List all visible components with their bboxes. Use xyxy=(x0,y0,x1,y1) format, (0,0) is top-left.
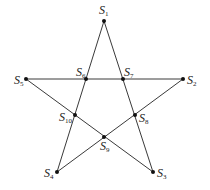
label-s10: S10 xyxy=(59,110,73,125)
label-s4: S4 xyxy=(44,166,54,181)
vertex-s1 xyxy=(102,19,106,23)
vertex-s3 xyxy=(151,170,155,174)
pentagram-diagram: S1S2S3S4S5S6S7S8S9S10 xyxy=(0,0,210,190)
vertex-s5 xyxy=(24,77,28,81)
label-s8: S8 xyxy=(139,111,149,126)
label-subscript: 8 xyxy=(145,118,149,126)
label-subscript: 2 xyxy=(193,80,197,88)
edge-s5-s3 xyxy=(26,79,153,172)
label-subscript: 7 xyxy=(130,72,134,80)
label-subscript: 5 xyxy=(20,80,24,88)
label-subscript: 6 xyxy=(82,72,86,80)
label-s1: S1 xyxy=(99,3,109,18)
label-s6: S6 xyxy=(76,65,86,80)
label-subscript: 4 xyxy=(50,173,54,181)
label-subscript: 3 xyxy=(163,173,167,181)
label-s7: S7 xyxy=(124,65,134,80)
label-group: S1S2S3S4S5S6S7S8S9S10 xyxy=(14,3,197,181)
label-s5: S5 xyxy=(14,73,24,88)
label-subscript: 1 xyxy=(105,10,109,18)
vertex-s2 xyxy=(181,77,185,81)
vertex-s10 xyxy=(73,113,77,117)
vertex-s8 xyxy=(133,113,137,117)
edge-s1-s4 xyxy=(57,21,104,172)
edge-s2-s4 xyxy=(57,79,183,172)
label-subscript: 9 xyxy=(106,146,110,154)
label-subscript: 10 xyxy=(65,117,73,125)
label-s9: S9 xyxy=(100,139,110,154)
label-s3: S3 xyxy=(157,166,167,181)
edge-s1-s3 xyxy=(104,21,153,172)
label-s2: S2 xyxy=(187,73,197,88)
vertex-s4 xyxy=(55,170,59,174)
